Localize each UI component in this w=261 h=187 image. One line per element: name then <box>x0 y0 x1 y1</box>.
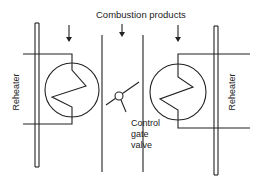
diagram-title: Combustion products <box>96 10 186 20</box>
left-reheater-coil <box>23 54 99 124</box>
diagram-canvas <box>0 0 261 187</box>
right-reheater-label: Reheater <box>228 73 237 110</box>
control-gate-valve-icon <box>106 82 139 112</box>
left-reheater-pipe <box>35 23 39 167</box>
arrow-down-icon <box>66 25 72 42</box>
arrow-down-icon <box>175 25 181 42</box>
control-gate-valve-label: Control gate valve <box>131 118 171 151</box>
valve-label-line-2: gate <box>131 129 171 140</box>
left-reheater-label: Reheater <box>12 73 21 110</box>
right-reheater-pipe <box>214 26 218 175</box>
valve-label-line-1: Control <box>131 118 171 129</box>
arrow-down-icon <box>119 24 125 37</box>
valve-label-line-3: valve <box>131 140 171 151</box>
